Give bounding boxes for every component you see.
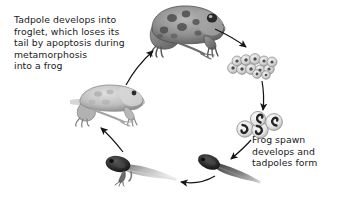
tadpole-with-legs-illustration [104,152,188,192]
tadpole-illustration [196,152,272,188]
stage-tadpole [196,152,272,188]
arrow-legged-tadpole-to-froglet [101,128,123,152]
arrow-spawn-to-embryos [262,81,264,110]
stage-froglet [64,80,148,128]
froglet-illustration [64,80,148,128]
adult-frog-illustration [146,2,232,60]
frog-spawn-illustration [224,48,282,80]
frog-life-cycle-diagram: Tadpole develops into froglet, which los… [0,0,348,199]
stage-frog-spawn [224,48,282,80]
stage-tadpole-with-legs [104,152,188,192]
caption-tadpole-to-frog: Tadpole develops into froglet, which los… [14,14,154,72]
developing-embryos-illustration [236,110,286,140]
stage-developing-embryos [236,110,286,140]
stage-adult-frog [146,2,232,60]
